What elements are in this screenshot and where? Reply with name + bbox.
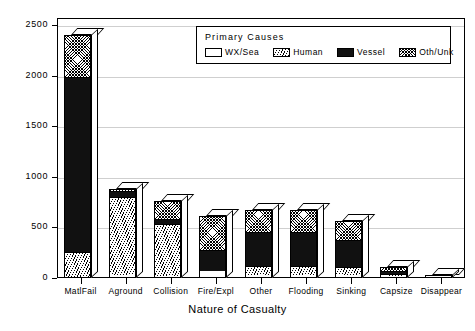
y-tick-mark <box>52 126 57 127</box>
legend-title: Primary Causes <box>205 32 442 42</box>
bar-segment-oth-unk <box>291 210 316 232</box>
bar-segment-oth-unk <box>246 210 271 232</box>
bar-fire-expl[interactable] <box>199 209 233 278</box>
bar-segment-wx-sea <box>336 275 361 277</box>
bar-segment-human <box>246 266 271 275</box>
bar-segment-vessel <box>110 191 135 197</box>
bar-front-face <box>335 221 362 278</box>
bar-segment-wx-sea <box>291 275 316 277</box>
bar-segment-wx-sea <box>155 276 180 277</box>
bar-segment-oth-unk <box>110 189 135 191</box>
gridline <box>58 77 464 78</box>
bar-front-face <box>380 267 407 278</box>
bar-side-face <box>91 29 98 278</box>
bar-side-face <box>226 210 233 278</box>
bar-front-face <box>425 275 452 278</box>
x-tick-mark <box>306 278 307 284</box>
y-tick-mark <box>52 76 57 77</box>
bar-side-face <box>136 183 143 278</box>
bar-front-face <box>290 210 317 278</box>
bar-segment-vessel <box>155 219 180 224</box>
bar-segment-oth-unk <box>155 201 180 219</box>
x-tick-mark <box>396 278 397 284</box>
legend: Primary Causes WX/SeaHumanVesselOth/Unk <box>196 26 451 64</box>
legend-entries: WX/SeaHumanVesselOth/Unk <box>205 47 442 57</box>
x-tick-mark <box>441 278 442 284</box>
x-tick-mark <box>126 278 127 284</box>
bar-collision[interactable] <box>154 194 188 278</box>
bar-front-face <box>109 189 136 278</box>
y-tick-mark <box>52 278 57 279</box>
bar-front-face <box>245 210 272 278</box>
chart-container: 25002000150010005000 MatlFailAgroundColl… <box>0 0 475 331</box>
bar-other[interactable] <box>245 203 279 278</box>
bar-side-face <box>272 204 279 278</box>
bar-segment-vessel <box>65 77 90 252</box>
y-tick-mark <box>52 177 57 178</box>
gridline <box>58 127 464 128</box>
bar-segment-human <box>336 267 361 275</box>
bar-front-face <box>199 216 226 278</box>
bar-segment-vessel <box>246 232 271 265</box>
y-tick-label: 1000 <box>2 172 48 181</box>
x-axis-title: Nature of Casualty <box>0 303 475 315</box>
bar-front-face <box>154 201 181 278</box>
bar-segment-human <box>65 252 90 277</box>
y-tick-label: 2000 <box>2 71 48 80</box>
bar-segment-human <box>381 274 406 276</box>
bar-segment-vessel <box>291 232 316 265</box>
bar-segment-wx-sea <box>200 271 225 277</box>
bar-sinking[interactable] <box>335 214 369 278</box>
legend-label: Human <box>293 47 323 57</box>
bar-segment-oth-unk <box>336 221 361 239</box>
legend-item-wx-sea[interactable]: WX/Sea <box>205 47 259 57</box>
bar-segment-wx-sea <box>110 275 135 277</box>
legend-label: Vessel <box>357 47 385 57</box>
x-tick-mark <box>171 278 172 284</box>
legend-item-oth-unk[interactable]: Oth/Unk <box>399 47 454 57</box>
bar-side-face <box>317 204 324 278</box>
bar-segment-vessel <box>336 240 361 267</box>
bar-segment-wx-sea <box>381 276 406 277</box>
bar-segment-oth-unk <box>200 216 225 249</box>
bar-segment-vessel <box>426 275 451 276</box>
bar-flooding[interactable] <box>290 203 324 278</box>
bar-segment-oth-unk <box>381 267 406 271</box>
x-tick-mark <box>81 278 82 284</box>
bar-side-face <box>181 195 188 278</box>
legend-item-human[interactable]: Human <box>273 47 323 57</box>
bar-matlfail[interactable] <box>64 28 98 278</box>
legend-swatch <box>337 48 354 57</box>
x-tick-mark <box>261 278 262 284</box>
y-tick-label: 500 <box>2 222 48 231</box>
bar-front-face <box>64 35 91 278</box>
bar-capsize[interactable] <box>380 260 414 278</box>
x-tick-label: Disappear <box>415 286 467 296</box>
y-tick-mark <box>52 227 57 228</box>
legend-swatch <box>205 48 222 57</box>
bar-disappear[interactable] <box>425 268 459 278</box>
legend-label: Oth/Unk <box>419 47 454 57</box>
bar-side-face <box>362 215 369 278</box>
bar-segment-wx-sea <box>426 276 451 277</box>
y-tick-label: 0 <box>2 273 48 282</box>
legend-swatch <box>399 48 416 57</box>
y-tick-mark <box>52 25 57 26</box>
bar-aground[interactable] <box>109 182 143 278</box>
bar-segment-vessel <box>200 250 225 271</box>
bar-segment-vessel <box>381 271 406 275</box>
bar-segment-human <box>155 224 180 276</box>
y-tick-label: 2500 <box>2 20 48 29</box>
bar-segment-wx-sea <box>246 275 271 277</box>
bar-segment-oth-unk <box>65 35 90 77</box>
y-tick-label: 1500 <box>2 121 48 130</box>
legend-item-vessel[interactable]: Vessel <box>337 47 385 57</box>
legend-swatch <box>273 48 290 57</box>
legend-label: WX/Sea <box>225 47 259 57</box>
bar-segment-human <box>110 197 135 275</box>
x-tick-mark <box>351 278 352 284</box>
x-tick-mark <box>216 278 217 284</box>
gridline <box>58 178 464 179</box>
bar-segment-human <box>291 266 316 276</box>
